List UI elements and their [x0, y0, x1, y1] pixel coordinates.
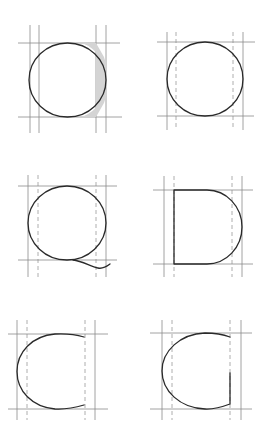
guide-grid — [153, 176, 253, 277]
overshoot-shade-inner — [96, 43, 107, 117]
panel-o-shaded — [18, 25, 122, 133]
letter-o-outline — [29, 43, 106, 117]
panel-g — [150, 320, 252, 420]
letter-construction-diagram — [0, 0, 265, 441]
panel-c — [8, 320, 108, 420]
panel-d — [153, 176, 253, 277]
guide-grid — [18, 175, 117, 277]
guide-grid — [8, 320, 108, 420]
panel-o — [157, 32, 255, 130]
panel-q — [18, 175, 117, 277]
guide-grid — [157, 32, 255, 130]
guide-grid — [150, 320, 252, 420]
letter-q-tail — [73, 260, 110, 268]
letter-q-bowl — [28, 186, 106, 260]
letter-o-outline — [167, 42, 243, 116]
